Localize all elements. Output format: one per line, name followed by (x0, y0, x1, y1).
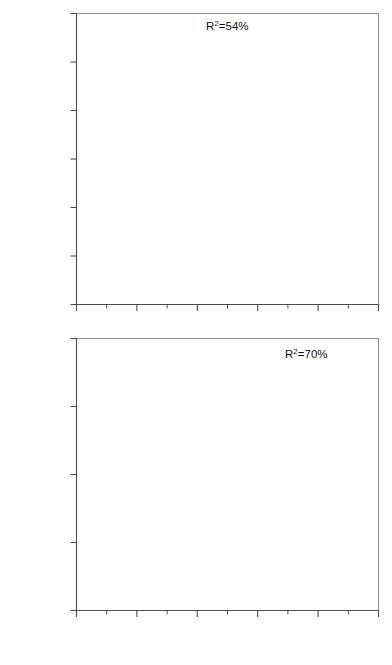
top-panel-svg: R2=54% (0, 0, 392, 330)
bottom-panel-annotation: R2=70% (285, 347, 328, 360)
top-panel-annotation: R2=54% (206, 19, 249, 32)
bottom-panel-y-ticks (71, 339, 77, 611)
annotation-r2: R2=70% (285, 347, 328, 360)
figure-root: R2=54% (0, 0, 392, 665)
annotation-r2: R2=54% (206, 19, 249, 32)
top-panel-x-ticks (77, 305, 379, 312)
bottom-panel-svg: R2=70% (0, 330, 392, 665)
bottom-panel-x-ticks (77, 611, 379, 618)
top-panel-frame (77, 14, 379, 305)
bottom-panel-frame (77, 339, 379, 611)
top-panel-y-ticks (71, 14, 77, 305)
top-panel: R2=54% (0, 0, 392, 330)
bottom-panel: R2=70% (0, 330, 392, 665)
